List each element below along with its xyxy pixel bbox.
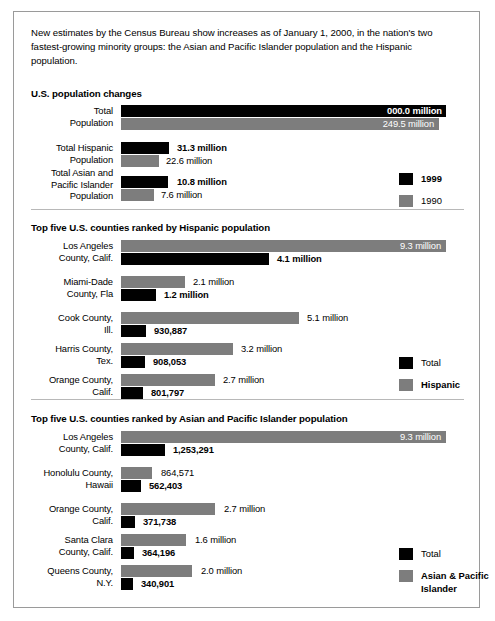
row-label: Queens County, N.Y.	[17, 565, 113, 588]
bar-fill-total	[121, 240, 446, 252]
chart-row-los-angeles-hispanic: Los Angeles County, Calif. 9.3 million 4…	[14, 240, 479, 268]
bar-fill-total	[121, 534, 186, 546]
row-bars: 000.0 million 249.5 million	[121, 105, 446, 131]
bar-fill-1999	[121, 142, 169, 154]
bar-value-1999: 31.3 million	[177, 142, 227, 154]
bar-1990: 249.5 million	[121, 118, 439, 130]
bar-api: 1,253,291	[121, 444, 446, 456]
bar-fill-hispanic	[121, 356, 145, 368]
bar-fill-total	[121, 312, 299, 324]
legend-label: Hispanic	[421, 378, 460, 391]
legend-label: Total	[421, 356, 441, 369]
bar-value-total: 1.6 million	[195, 534, 236, 546]
row-label: Orange County, Calif.	[22, 503, 113, 526]
bar-value-hispanic: 1.2 million	[164, 289, 209, 301]
legend-swatch-icon	[399, 173, 413, 185]
bar-fill-total	[121, 503, 215, 515]
legend-label: 1990	[421, 194, 442, 207]
bar-value-1990: 7.6 million	[161, 189, 202, 201]
legend-label: Total	[421, 547, 441, 560]
bar-fill-total	[121, 467, 152, 479]
legend-swatch-icon	[399, 195, 413, 207]
row-label: Cook County, Ill.	[22, 312, 113, 335]
bar-value-api: 364,196	[142, 547, 175, 559]
legend-swatch-icon	[399, 357, 413, 369]
legend-swatch-icon	[399, 548, 413, 560]
bar-total: 9.3 million	[121, 431, 446, 443]
bar-fill-api	[121, 480, 141, 492]
bar-fill-hispanic	[121, 325, 146, 337]
row-label: Miami-Dade County, Fla	[22, 276, 113, 299]
bar-1999: 000.0 million	[121, 105, 446, 117]
bar-fill-total	[121, 565, 192, 577]
bar-value-1999: 10.8 million	[177, 176, 227, 188]
bar-value-1990: 22.6 million	[166, 155, 212, 167]
bar-fill-hispanic	[121, 289, 156, 301]
bar-value-total: 9.3 million	[400, 240, 441, 252]
row-label: Total Asian and Pacific Islander Populat…	[22, 167, 113, 202]
bar-value-total: 9.3 million	[400, 431, 441, 443]
bar-value-total: 2.7 million	[223, 374, 264, 386]
bar-value-1999: 000.0 million	[387, 105, 442, 117]
chart-row-los-angeles-api: Los Angeles County, Calif. 9.3 million 1…	[14, 431, 479, 459]
bar-fill-api	[121, 444, 165, 456]
row-label: Honolulu County, Hawaii	[17, 467, 113, 490]
row-label: Total Population	[22, 105, 113, 128]
legend-swatch-icon	[399, 379, 413, 391]
chart-row-total-hispanic: Total Hispanic Population 31.3 million 2…	[14, 142, 479, 170]
row-bars: 9.3 million 1,253,291	[121, 431, 446, 457]
bar-value-total: 2.1 million	[193, 276, 234, 288]
bar-value-hispanic: 4.1 million	[277, 253, 322, 265]
bar-fill-1990	[121, 189, 154, 201]
row-label: Harris County, Tex.	[22, 343, 113, 366]
legend-label: Asian & Pacific Islander	[421, 569, 489, 595]
section-title-asian-pacific-counties: Top five U.S. counties ranked by Asian a…	[31, 413, 348, 424]
bar-fill-hispanic	[121, 387, 143, 399]
bar-value-hispanic: 908,053	[153, 356, 186, 368]
row-label: Santa Clara County, Calif.	[22, 534, 113, 557]
bar-value-hispanic: 801,797	[151, 387, 184, 399]
section-divider	[31, 399, 464, 400]
section-divider	[31, 209, 464, 210]
row-label: Orange County, Calif.	[22, 374, 113, 397]
bar-value-total: 5.1 million	[307, 312, 348, 324]
row-label: Los Angeles County, Calif.	[22, 240, 113, 263]
infographic-frame: New estimates by the Census Bureau show …	[13, 11, 480, 608]
bar-value-total: 864,571	[161, 467, 194, 479]
bar-fill-total	[121, 431, 446, 443]
bar-value-hispanic: 930,887	[154, 325, 187, 337]
bar-fill-api	[121, 516, 135, 528]
chart-row-orange-county-api: Orange County, Calif. 2.7 million 371,73…	[14, 503, 479, 531]
bar-fill-api	[121, 547, 134, 559]
chart-row-miami-dade-hispanic: Miami-Dade County, Fla 2.1 million 1.2 m…	[14, 276, 479, 304]
bar-fill-api	[121, 578, 133, 590]
bar-value-api: 340,901	[141, 578, 174, 590]
bar-value-total: 2.7 million	[224, 503, 265, 515]
bar-value-1990: 249.5 million	[383, 118, 434, 130]
row-bars: 9.3 million 4.1 million	[121, 240, 446, 266]
bar-value-total: 2.0 million	[201, 565, 242, 577]
chart-row-cook-county-hispanic: Cook County, Ill. 5.1 million 930,887	[14, 312, 479, 340]
bar-fill-1999	[121, 176, 168, 188]
bar-fill-1990	[121, 155, 159, 167]
bar-hispanic: 4.1 million	[121, 253, 446, 265]
bar-value-api: 562,403	[149, 480, 182, 492]
bar-total: 9.3 million	[121, 240, 446, 252]
bar-value-total: 3.2 million	[241, 343, 282, 355]
bar-fill-total	[121, 374, 215, 386]
bar-fill-total	[121, 276, 185, 288]
row-label: Los Angeles County, Calif.	[22, 431, 113, 454]
section-title-population-changes: U.S. population changes	[31, 88, 142, 99]
section-title-hispanic-counties: Top five U.S. counties ranked by Hispani…	[31, 222, 270, 233]
chart-row-total-population: Total Population 000.0 million 249.5 mil…	[14, 105, 479, 133]
row-label: Total Hispanic Population	[22, 142, 113, 165]
chart-row-honolulu-api: Honolulu County, Hawaii 864,571 562,403	[14, 467, 479, 495]
bar-value-api: 1,253,291	[173, 444, 214, 456]
bar-fill-total	[121, 343, 233, 355]
intro-paragraph: New estimates by the Census Bureau show …	[31, 26, 451, 69]
legend-label: 1999	[421, 172, 442, 185]
bar-value-api: 371,738	[143, 516, 176, 528]
legend-swatch-icon	[399, 570, 413, 582]
bar-fill-hispanic	[121, 253, 269, 265]
